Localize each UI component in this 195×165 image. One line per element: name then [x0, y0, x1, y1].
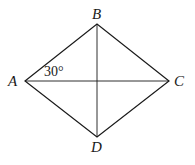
rhombus-diagram: B A C D 30°	[0, 0, 195, 165]
vertex-label-a: A	[7, 73, 18, 89]
vertex-label-b: B	[92, 6, 101, 22]
vertex-label-d: D	[90, 139, 102, 155]
angle-label: 30°	[44, 64, 64, 79]
vertex-label-c: C	[174, 73, 185, 89]
